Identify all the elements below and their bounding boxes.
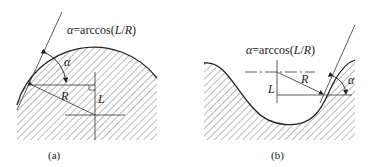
formula-label-b: α=arccos(L/R) [246,44,315,56]
formula-R: R [125,23,132,37]
formula-text: =arccos( [252,43,293,57]
formula-close: ) [311,43,315,57]
diagram-canvas [0,0,371,167]
hatched-region-b [190,0,371,167]
r-label-b: R [301,73,308,85]
figure: α=arccos(L/R) α R L (a) α=arccos(L/R) α … [0,0,371,167]
formula-R: R [304,43,311,57]
alpha-label-a: α [64,56,70,68]
formula-text: =arccos( [73,23,114,37]
radius-line-b [277,72,323,94]
panel-b [190,0,371,167]
l-label-b: L [268,83,275,95]
l-label-a: L [98,93,105,105]
formula-close: ) [132,23,136,37]
caption-b: (b) [271,150,284,161]
alpha-label-b: α [348,74,354,86]
formula-label-a: α=arccos(L/R) [67,24,136,36]
caption-a: (a) [48,150,60,161]
r-label-a: R [61,90,68,102]
